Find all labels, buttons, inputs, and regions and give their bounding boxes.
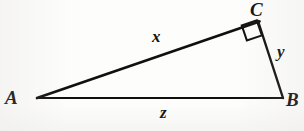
vertex-label-a: A (5, 88, 18, 107)
vertex-label-b: B (286, 90, 299, 109)
vertex-label-c: C (250, 0, 263, 19)
side-label-x: x (152, 28, 161, 45)
side-label-z: z (160, 104, 167, 121)
side-x-line (37, 22, 260, 99)
triangle-figure: A B C x y z (0, 0, 304, 131)
side-label-y: y (277, 43, 285, 60)
